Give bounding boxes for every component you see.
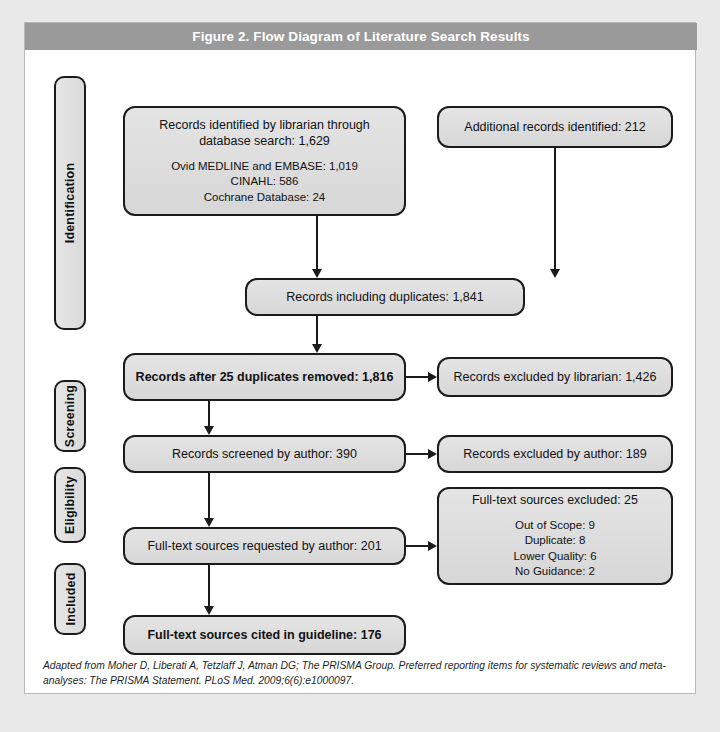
figure-title: Figure 2. Flow Diagram of Literature Sea… — [192, 29, 529, 44]
stage-label-included-text: Included — [63, 573, 77, 626]
connector-fulltext-requested-to-cited — [208, 565, 210, 609]
node-records-screened-author-head: Records screened by author: 390 — [172, 446, 357, 463]
connector-screened-to-excluded-author — [406, 453, 430, 455]
node-records-including-duplicates: Records including duplicates: 1,841 — [245, 278, 525, 316]
figure-footnote: Adapted from Moher D, Liberati A, Tetzla… — [43, 658, 673, 689]
stage-label-eligibility-text: Eligibility — [63, 476, 77, 534]
node-records-excluded-author: Records excluded by author: 189 — [437, 435, 673, 473]
stage-label-identification: Identification — [54, 76, 86, 330]
node-fulltext-sources-excluded-head: Full-text sources excluded: 25 — [472, 492, 638, 509]
node-additional-records-identified: Additional records identified: 212 — [437, 106, 673, 148]
flow-diagram-canvas: Identification Screening Eligibility Inc… — [25, 50, 697, 695]
stage-label-identification-text: Identification — [63, 163, 77, 244]
connector-additional-to-duplicates — [554, 148, 556, 272]
node-records-screened-author: Records screened by author: 390 — [123, 435, 406, 473]
stage-label-eligibility: Eligibility — [54, 467, 86, 543]
connector-duplicates-to-after-duplicates — [316, 316, 318, 347]
node-fulltext-sources-cited-head: Full-text sources cited in guideline: 17… — [147, 627, 381, 644]
connector-after-duplicates-to-screened — [208, 401, 210, 429]
connector-fulltext-requested-to-excluded — [406, 545, 430, 547]
node-fulltext-sources-excluded-reasons: Out of Scope: 9 Duplicate: 8 Lower Quali… — [513, 518, 596, 580]
arrowhead-fulltext-requested-to-excluded — [428, 541, 437, 551]
connector-after-duplicates-to-excluded-librarian — [406, 376, 430, 378]
node-fulltext-sources-excluded: Full-text sources excluded: 25 Out of Sc… — [437, 487, 673, 585]
stage-label-included: Included — [54, 563, 86, 635]
arrowhead-identified-to-duplicates — [312, 269, 322, 278]
node-records-identified-database-breakdown: Ovid MEDLINE and EMBASE: 1,019 CINAHL: 5… — [171, 159, 358, 206]
connector-screened-to-fulltext-requested — [208, 473, 210, 521]
arrowhead-fulltext-requested-to-cited — [204, 606, 214, 615]
stage-label-screening: Screening — [54, 380, 86, 452]
node-records-excluded-librarian: Records excluded by librarian: 1,426 — [437, 357, 673, 397]
node-records-excluded-author-head: Records excluded by author: 189 — [463, 446, 646, 463]
node-fulltext-requested-author-head: Full-text sources requested by author: 2… — [147, 538, 381, 555]
arrowhead-duplicates-to-after-duplicates — [312, 344, 322, 353]
connector-identified-to-duplicates — [316, 216, 318, 272]
node-fulltext-requested-author: Full-text sources requested by author: 2… — [123, 527, 406, 565]
node-records-including-duplicates-head: Records including duplicates: 1,841 — [286, 289, 483, 306]
node-records-identified-database-head: Records identified by librarian through … — [133, 117, 396, 150]
node-records-after-duplicates-removed-head: Records after 25 duplicates removed: 1,8… — [136, 369, 394, 386]
arrowhead-additional-to-duplicates — [550, 269, 560, 278]
node-records-after-duplicates-removed: Records after 25 duplicates removed: 1,8… — [123, 353, 406, 401]
figure-panel: Figure 2. Flow Diagram of Literature Sea… — [24, 22, 696, 694]
arrowhead-screened-to-excluded-author — [428, 449, 437, 459]
node-records-identified-database: Records identified by librarian through … — [123, 106, 406, 216]
arrowhead-after-duplicates-to-screened — [204, 426, 214, 435]
arrowhead-after-duplicates-to-excluded-librarian — [428, 372, 437, 382]
node-fulltext-sources-cited: Full-text sources cited in guideline: 17… — [123, 615, 406, 655]
figure-title-bar: Figure 2. Flow Diagram of Literature Sea… — [25, 23, 697, 50]
node-additional-records-identified-head: Additional records identified: 212 — [464, 119, 645, 136]
node-records-excluded-librarian-head: Records excluded by librarian: 1,426 — [454, 369, 657, 386]
arrowhead-screened-to-fulltext-requested — [204, 518, 214, 527]
stage-label-screening-text: Screening — [63, 385, 77, 447]
